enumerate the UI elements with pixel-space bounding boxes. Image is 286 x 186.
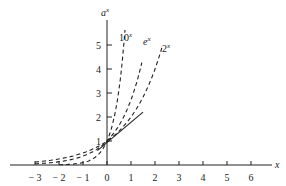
x-tick-label: 3 [177,172,182,183]
x-tick-label: 5 [225,172,230,183]
y-tick-label: 2 [96,112,101,123]
y-ticks: 12345 [96,40,112,147]
y-tick-label: 1 [96,136,101,147]
x-tick-label: 1 [129,172,134,183]
curve-10x [59,30,125,165]
y-tick-label: 3 [96,88,101,99]
y-tick-label: 5 [96,40,101,51]
x-tick-label: − 1 [76,172,89,183]
x-tick-label: 4 [201,172,206,183]
x-tick-label: 6 [249,172,254,183]
tangent-line [97,112,143,150]
x-axis-label: x [274,159,280,170]
y-axis-label: ax [101,6,110,18]
legend-ex: ex [143,35,151,47]
y-tick-label: 4 [96,64,101,75]
axes [10,20,272,165]
x-tick-label: − 3 [28,172,41,183]
exponential-chart: − 3− 2− 10123456 12345 x ax 10x ex 2x [0,0,286,186]
x-tick-label: − 2 [52,172,65,183]
legend-2x: 2x [162,42,171,54]
x-tick-label: 0 [105,172,110,183]
x-tick-label: 2 [153,172,158,183]
curve-ex [35,63,142,164]
legend-10x: 10x [119,31,133,43]
